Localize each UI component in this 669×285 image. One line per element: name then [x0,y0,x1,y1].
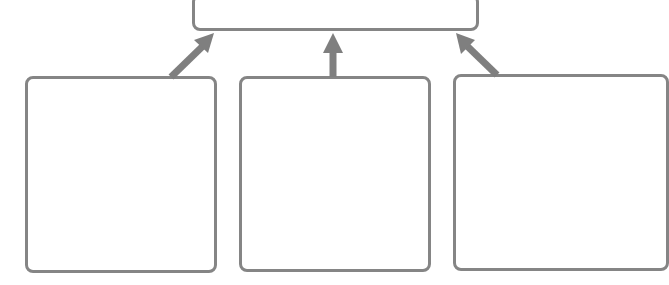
arrow-right-to-top [456,33,497,75]
arrow-middle-to-top [323,33,343,77]
arrow-left-to-top [171,33,214,77]
